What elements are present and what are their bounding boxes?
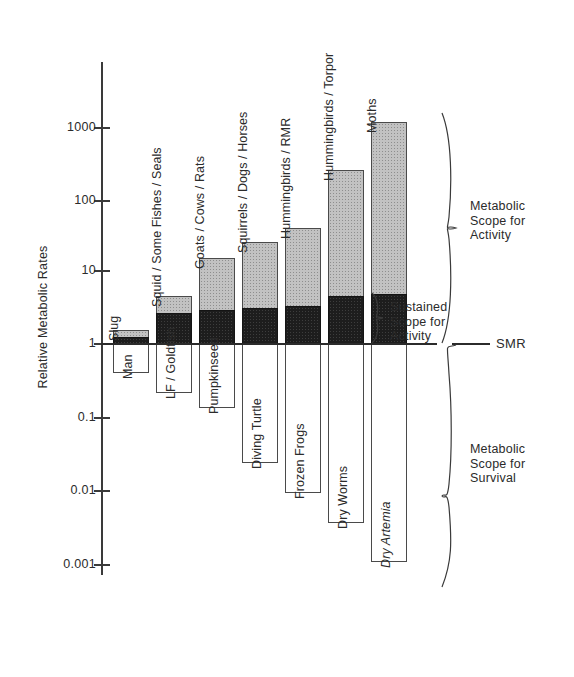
annotation-sustained-scope-activity: Sustained Scope for Activity <box>390 300 447 344</box>
bar-1-upper-label: Slug <box>107 316 121 341</box>
annotation-metabolic-scope-activity: Metabolic Scope for Activity <box>470 199 525 243</box>
bar-7-lower-label: Dry Artemia <box>379 501 393 568</box>
bar-6-upper-label: Hummingbirds / Torpor <box>322 53 336 181</box>
y-tick-label-10: 10 <box>81 264 96 276</box>
bar-2-upper-label: Squid / Some Fishes / Seals <box>150 147 164 307</box>
y-tick-label-1: 1 <box>89 337 96 349</box>
y-tick-0.001 <box>94 564 110 566</box>
bar-4-sustained-segment <box>242 308 278 344</box>
y-tick-100 <box>94 200 110 202</box>
bar-3-upper-label: Goats / Cows / Rats <box>193 156 207 269</box>
brace-metabolic-scope-survival <box>436 344 462 588</box>
bar-6-sustained-segment <box>328 296 364 344</box>
annotation-smr: SMR <box>496 336 526 351</box>
y-tick-1000 <box>94 127 110 129</box>
y-tick-label-100: 100 <box>74 194 96 206</box>
y-tick-10 <box>94 270 110 272</box>
y-axis-title: Relative Metabolic Rates <box>36 222 50 412</box>
metabolic-rates-chart: 1000 100 10 1 0.1 0.01 0.001 Relative Me… <box>0 0 574 677</box>
bar-1-lower-label: Man <box>121 354 135 379</box>
y-tick-label-0.1: 0.1 <box>78 411 96 423</box>
brace-sustained-scope-activity <box>368 292 386 344</box>
bar-2-lower-label: LF / Goldfish <box>164 327 178 399</box>
y-axis-line <box>101 62 103 575</box>
smr-baseline <box>101 343 437 345</box>
y-tick-label-0.01: 0.01 <box>70 484 96 496</box>
annotation-metabolic-scope-survival: Metabolic Scope for Survival <box>470 442 525 486</box>
bar-4-lower-label: Diving Turtle <box>250 398 264 469</box>
y-tick-0.1 <box>94 417 110 419</box>
y-tick-0.01 <box>94 490 110 492</box>
bar-5-sustained-segment <box>285 306 321 344</box>
bar-7-upper-label: Moths <box>365 98 379 133</box>
bar-5-lower-label: Frozen Frogs <box>293 423 307 499</box>
y-tick-label-0.001: 0.001 <box>63 558 96 570</box>
y-tick-label-1000: 1000 <box>67 121 96 133</box>
bar-6-lower-label: Dry Worms <box>336 466 350 529</box>
bar-5-upper-label: Hummingbirds / RMR <box>279 118 293 239</box>
bar-3-lower-label: Pumpkinseed <box>207 337 221 414</box>
bar-4-upper-label: Squirrels / Dogs / Horses <box>236 112 250 253</box>
